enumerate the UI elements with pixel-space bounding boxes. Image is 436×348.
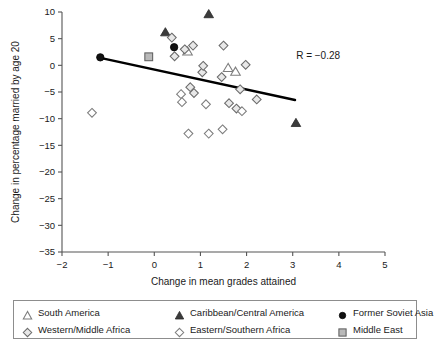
data-point-eastern-southern-africa xyxy=(204,129,213,138)
data-point-western-middle-africa xyxy=(252,95,261,104)
legend-item-middle-east[interactable]: Middle East xyxy=(337,321,433,338)
y-tick-label: −15 xyxy=(39,140,55,151)
legend-item-south-america[interactable]: South America xyxy=(22,304,174,321)
open-diamond-icon xyxy=(174,324,185,335)
data-point-western-middle-africa xyxy=(225,99,234,108)
data-point-eastern-southern-africa xyxy=(88,108,97,117)
data-point-western-middle-africa xyxy=(219,41,228,50)
data-point-eastern-southern-africa xyxy=(202,100,211,109)
x-tick-label: 3 xyxy=(290,259,295,270)
data-point-middle-east xyxy=(145,53,153,61)
open-triangle-icon xyxy=(22,307,33,318)
data-point-caribbean-central-america xyxy=(161,28,171,36)
legend-item-western-middle-africa[interactable]: Western/Middle Africa xyxy=(22,321,174,338)
legend-label: Eastern/Southern Africa xyxy=(190,325,290,335)
legend-label: Caribbean/Central America xyxy=(190,308,304,318)
y-tick-label: −35 xyxy=(39,246,55,257)
shaded-diamond-icon xyxy=(22,324,33,335)
legend-label: Middle East xyxy=(353,325,403,335)
filled-circle-icon xyxy=(337,307,348,318)
data-point-eastern-southern-africa xyxy=(177,90,186,99)
y-tick-label: 10 xyxy=(44,6,55,17)
y-tick-label: −10 xyxy=(39,113,55,124)
x-tick-label: 5 xyxy=(382,259,387,270)
x-tick-label: 2 xyxy=(244,259,249,270)
x-tick-label: 4 xyxy=(336,259,341,270)
x-tick-label: −1 xyxy=(103,259,114,270)
data-point-western-middle-africa xyxy=(241,60,250,69)
x-tick-label: 0 xyxy=(152,259,157,270)
data-point-former-soviet-asia xyxy=(170,44,177,51)
y-tick-label: −30 xyxy=(39,220,55,231)
x-tick-label: 1 xyxy=(198,259,203,270)
y-tick-label: −5 xyxy=(44,86,55,97)
y-tick-label: 0 xyxy=(50,60,55,71)
data-point-western-middle-africa xyxy=(189,41,198,50)
x-tick-label: −2 xyxy=(57,259,68,270)
data-point-western-middle-africa xyxy=(217,73,226,82)
legend-item-caribbean-central-america[interactable]: Caribbean/Central America xyxy=(174,304,337,321)
y-tick-label: 5 xyxy=(50,33,55,44)
data-point-western-middle-africa xyxy=(170,52,179,61)
data-point-south-america xyxy=(223,63,233,71)
data-point-caribbean-central-america xyxy=(291,118,301,126)
data-point-western-middle-africa xyxy=(199,61,208,70)
legend-label: Western/Middle Africa xyxy=(38,325,130,335)
legend-item-eastern-southern-africa[interactable]: Eastern/Southern Africa xyxy=(174,321,337,338)
y-tick-label: −20 xyxy=(39,166,55,177)
data-point-caribbean-central-america xyxy=(204,10,214,18)
data-point-former-soviet-asia xyxy=(97,54,104,61)
plot-canvas: 1050−5−10−15−20−25−30−35−2−1012345Change… xyxy=(0,0,436,348)
grey-square-icon xyxy=(337,324,348,335)
filled-triangle-icon xyxy=(174,307,185,318)
data-point-eastern-southern-africa xyxy=(178,98,187,107)
x-axis-title: Change in mean grades attained xyxy=(151,276,296,287)
legend-label: Former Soviet Asia xyxy=(353,308,433,318)
annotation-correlation: R = −0.28 xyxy=(296,50,340,61)
y-tick-label: −25 xyxy=(39,193,55,204)
chart-legend: South AmericaCaribbean/Central AmericaFo… xyxy=(13,300,417,339)
data-point-eastern-southern-africa xyxy=(218,125,227,134)
y-axis-title: Change in percentage married by age 20 xyxy=(10,41,21,223)
scatter-plot-figure: 1050−5−10−15−20−25−30−35−2−1012345Change… xyxy=(0,0,436,348)
legend-item-former-soviet-asia[interactable]: Former Soviet Asia xyxy=(337,304,433,321)
data-point-eastern-southern-africa xyxy=(184,129,193,138)
legend-label: South America xyxy=(38,308,100,318)
